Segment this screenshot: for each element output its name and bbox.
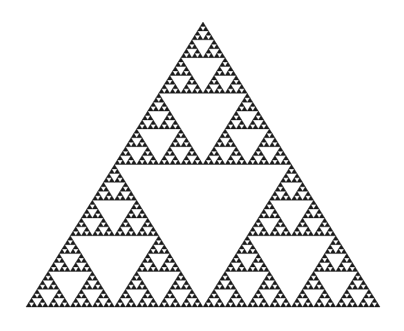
sierpinski-triangle-figure — [0, 0, 404, 331]
figure-canvas — [0, 0, 404, 331]
background-rect — [0, 0, 404, 331]
